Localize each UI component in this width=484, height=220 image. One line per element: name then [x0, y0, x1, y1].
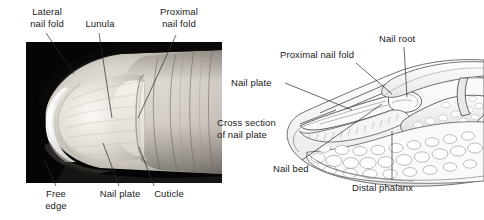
label-cross-section-of-nail-plate: Cross section of nail plate — [217, 117, 276, 140]
figure-nail-anatomy: Lateral nail fold Lunula Proximal nail f… — [0, 0, 484, 220]
label-proximal-nail-fold-drawing: Proximal nail fold — [280, 49, 354, 61]
label-nail-root: Nail root — [379, 33, 415, 45]
label-nail-bed: Nail bed — [273, 163, 309, 175]
label-nail-plate-drawing: Nail plate — [231, 77, 272, 89]
label-distal-phalanx: Distal phalanx — [352, 182, 413, 194]
